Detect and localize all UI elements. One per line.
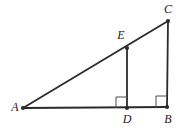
- vertex-marker-e: [125, 46, 129, 50]
- vertex-label-c: C: [164, 3, 172, 15]
- vertex-label-a: A: [11, 101, 18, 113]
- segment-ac: [23, 21, 168, 108]
- segment-bc: [167, 21, 168, 107]
- vertex-label-e: E: [117, 29, 124, 41]
- vertex-label-d: D: [123, 113, 132, 125]
- vertex-marker-c: [166, 19, 170, 23]
- geometry-figure: ABCDE: [0, 0, 186, 129]
- vertex-marker-d: [125, 106, 129, 110]
- figure-canvas: [0, 0, 186, 129]
- vertex-label-b: B: [164, 113, 171, 125]
- right-angle-marker-b: [156, 96, 167, 107]
- vertex-marker-a: [21, 106, 25, 110]
- right-angle-marker-d: [116, 97, 127, 108]
- vertex-marker-b: [165, 105, 169, 109]
- segment-ab: [23, 107, 167, 108]
- segments-group: [23, 21, 168, 108]
